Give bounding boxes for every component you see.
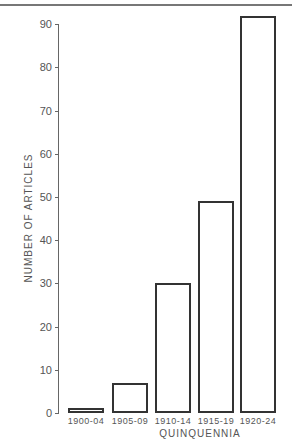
x-category-label: 1900-04 (64, 416, 108, 426)
y-tick (55, 240, 59, 241)
x-axis-title: QUINQUENNIA (140, 428, 260, 439)
bar-1900-04 (68, 408, 104, 413)
x-category-label: 1910-14 (151, 416, 195, 426)
bar-1920-24 (240, 16, 276, 413)
top-border-rule (0, 4, 292, 6)
x-category-label: 1915-19 (194, 416, 238, 426)
y-tick (55, 111, 59, 112)
bar-1910-14 (155, 283, 191, 413)
y-tick (55, 197, 59, 198)
y-tick (55, 413, 59, 414)
y-tick (55, 327, 59, 328)
y-tick-label: 10 (12, 364, 52, 376)
y-tick-label: 0 (12, 407, 52, 419)
y-axis-title: NUMBER OF ARTICLES (23, 154, 34, 283)
y-tick (55, 67, 59, 68)
bar-1905-09 (112, 383, 148, 413)
y-tick (55, 154, 59, 155)
y-tick-label: 20 (12, 321, 52, 333)
y-axis-line (58, 24, 59, 414)
bar-1915-19 (198, 201, 234, 413)
y-tick (55, 24, 59, 25)
y-tick-label: 90 (12, 18, 52, 30)
y-tick (55, 370, 59, 371)
x-category-label: 1905-09 (108, 416, 152, 426)
y-tick-label: 80 (12, 61, 52, 73)
y-tick-label: 70 (12, 105, 52, 117)
y-tick (55, 283, 59, 284)
x-category-label: 1920-24 (236, 416, 280, 426)
